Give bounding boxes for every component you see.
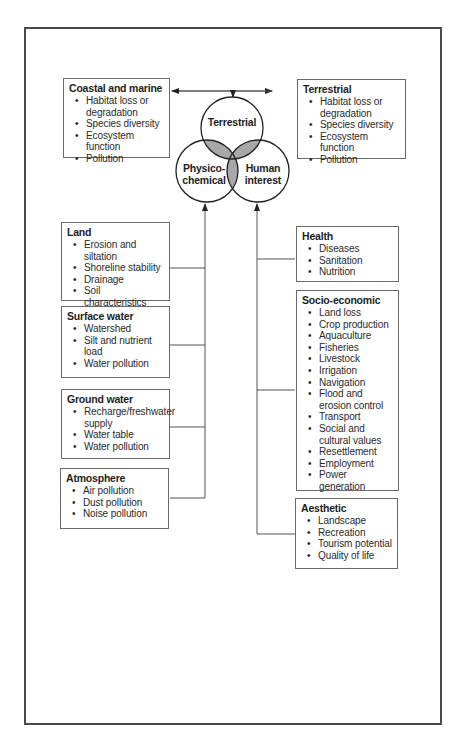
list-item: Noise pollution [72,508,163,520]
list-item: Water table [73,429,164,441]
list-item: Water pollution [73,358,164,370]
list-item: Sanitation [308,255,393,267]
list-item: Habitat loss or degradation [75,95,164,118]
list-item: Water pollution [73,441,164,453]
list-item: Species diversity [75,118,164,130]
list-item: Drainage [73,274,164,286]
list-item: Power generation [308,469,393,492]
list-item: Flood and erosion control [308,388,393,411]
list-item: Land loss [308,307,393,319]
list-item: Pollution [75,153,164,165]
list-item: Livestock [308,353,393,365]
list-item: Resettlement [308,446,393,458]
list-item: Air pollution [72,485,163,497]
list-item: Ecosystem function [75,130,164,153]
health-box: Health Diseases Sanitation Nutrition [296,226,399,282]
list-item: Recreation [307,527,392,539]
list-item: Erosion and siltation [73,239,164,262]
list-item: Ecosystem function [309,131,400,154]
list-item: Fisheries [308,342,393,354]
list-item: Navigation [308,377,393,389]
list-item: Habitat loss or degradation [309,96,400,119]
list-item: Recharge/freshwater supply [73,406,164,429]
surface-water-box: Surface water Watershed Silt and nutrien… [61,306,170,378]
human-interest-label: Human interest [236,162,290,186]
list-item: Diseases [308,243,393,255]
list-item: Crop production [308,319,393,331]
atmosphere-box: Atmosphere Air pollution Dust pollution … [60,468,169,529]
terrestrial-circle-label: Terrestrial [202,116,262,128]
terrestrial-box: Terrestrial Habitat loss or degradation … [297,79,406,159]
list-item: Aquaculture [308,330,393,342]
list-item: Silt and nutrient load [73,335,164,358]
ground-water-box: Ground water Recharge/freshwater supply … [61,389,170,459]
list-item: Dust pollution [72,497,163,509]
terrestrial-circle [201,97,263,159]
aesthetic-box: Aesthetic Landscape Recreation Tourism p… [295,498,398,569]
list-item: Social and cultural values [308,423,393,446]
list-item: Quality of life [307,550,392,562]
list-item: Pollution [309,154,400,166]
list-item: Tourism potential [307,538,392,550]
list-item: Species diversity [309,119,400,131]
list-item: Employment [308,458,393,470]
list-item: Shoreline stability [73,262,164,274]
socio-economic-box: Socio-economic Land loss Crop production… [296,290,399,491]
land-box: Land Erosion and siltation Shoreline sta… [61,222,170,301]
coastal-marine-box: Coastal and marine Habitat loss or degra… [63,78,170,158]
list-item: Transport [308,411,393,423]
list-item: Nutrition [308,266,393,278]
list-item: Irrigation [308,365,393,377]
list-item: Landscape [307,515,392,527]
list-item: Watershed [73,323,164,335]
physico-chemical-label: Physico- chemical [175,162,233,186]
